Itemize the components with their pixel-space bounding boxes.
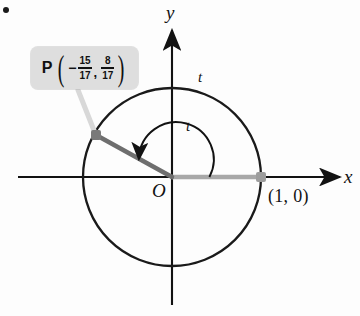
point-p-callout: P ( − 15 17 , 8 17 )	[31, 47, 138, 89]
y-fraction-bar	[101, 67, 114, 68]
y-denominator: 17	[101, 70, 114, 81]
y-numerator: 8	[104, 55, 112, 66]
angle-arc-label: t	[186, 118, 190, 135]
callout-leader-line	[78, 90, 95, 133]
arc-length-label: t	[198, 69, 202, 86]
open-paren: (	[58, 54, 65, 82]
y-axis-label: y	[166, 2, 174, 24]
negative-sign: −	[68, 60, 76, 76]
x-numerator: 15	[78, 55, 91, 66]
close-paren: )	[118, 54, 125, 82]
x-denominator: 17	[78, 70, 91, 81]
angle-arc	[139, 122, 214, 177]
unit-circle-figure: y x O t t (1, 0) P ( − 15 17 , 8 17 )	[0, 0, 360, 316]
origin-label: O	[152, 180, 166, 202]
callout-content: P ( − 15 17 , 8 17 )	[42, 54, 128, 82]
point-p-name: P	[42, 59, 53, 77]
terminal-ray	[96, 135, 172, 177]
coordinate-comma: ,	[94, 65, 98, 82]
unit-point-label: (1, 0)	[268, 186, 309, 207]
point-p-marker	[91, 130, 101, 140]
unit-point-marker	[256, 172, 266, 182]
x-axis-label: x	[344, 166, 352, 188]
x-coordinate-fraction: 15 17	[78, 55, 91, 80]
y-coordinate-fraction: 8 17	[101, 55, 114, 80]
x-fraction-bar	[78, 67, 91, 68]
